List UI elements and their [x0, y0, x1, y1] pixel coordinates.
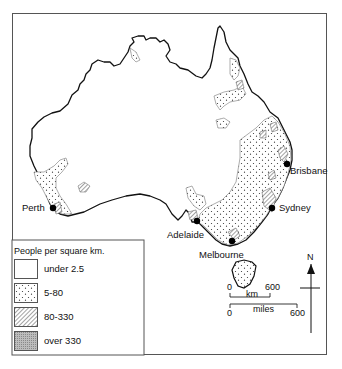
legend-item-under-2-5: under 2.5 [14, 259, 139, 279]
city-label-perth: Perth [22, 203, 45, 213]
km-scale-end: 600 [265, 282, 280, 292]
legend-swatch-hatch [14, 307, 38, 327]
legend-item-over-330: over 330 [14, 331, 139, 351]
city-label-melbourne: Melbourne [199, 250, 244, 260]
legend-label: over 330 [44, 335, 81, 346]
north-label: N [307, 252, 314, 262]
legend-item-80-330: 80-330 [14, 307, 139, 327]
legend: People per square km. under 2.5 5-80 80-… [14, 246, 144, 257]
city-dot-melbourne [229, 238, 235, 244]
legend-title: People per square km. [14, 246, 144, 257]
city-dot-sydney [269, 205, 275, 211]
legend-swatch-blank [14, 259, 38, 279]
city-dot-perth [50, 205, 56, 211]
miles-scale-end: 600 [290, 308, 305, 318]
km-scale-unit: km [246, 289, 258, 299]
north-arrow-head [307, 264, 315, 274]
city-label-brisbane: Brisbane [290, 166, 328, 176]
tasmania-outline [232, 260, 256, 288]
city-dot-adelaide [194, 218, 200, 224]
legend-label: 80-330 [44, 311, 74, 322]
miles-scale-start: 0 [227, 308, 232, 318]
miles-scale-unit: miles [253, 304, 274, 314]
legend-label: under 2.5 [44, 263, 84, 274]
legend-swatch-dense [14, 331, 38, 351]
city-label-adelaide: Adelaide [167, 230, 204, 240]
legend-item-5-80: 5-80 [14, 283, 139, 303]
legend-swatch-dots [14, 283, 38, 303]
km-scale-start: 0 [227, 282, 232, 292]
city-label-sydney: Sydney [279, 203, 311, 213]
legend-label: 5-80 [44, 287, 63, 298]
